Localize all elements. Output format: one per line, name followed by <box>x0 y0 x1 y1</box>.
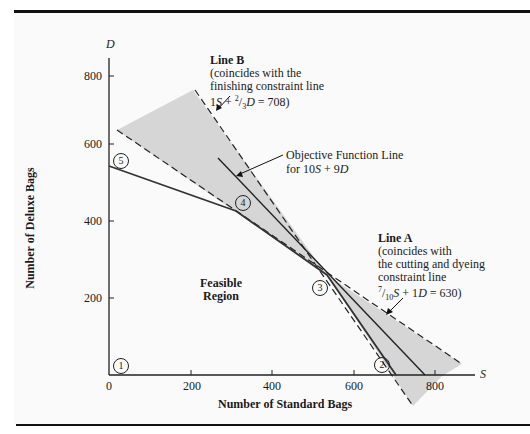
vertex-label-1: 1 <box>113 358 129 374</box>
y-axis-symbol: D <box>106 37 115 51</box>
vertex-label-5: 5 <box>113 153 129 169</box>
objective-desc-1: Objective Function Line <box>286 148 403 162</box>
y-tick-label-800: 800 <box>84 69 102 83</box>
y-tick-label-400: 400 <box>84 214 102 228</box>
line-a-desc-1: (coincides with <box>378 244 452 258</box>
vertex-label-4: 4 <box>235 195 251 211</box>
line-a-eq-d: D <box>418 286 427 300</box>
x-tick-label-200: 200 <box>183 379 201 393</box>
x-axis-symbol: S <box>480 367 486 381</box>
objective-eq-d: D <box>340 162 349 176</box>
vertex-label-3: 3 <box>312 280 328 296</box>
line-b-title: Line B <box>210 53 244 67</box>
x-tick-label-600: 600 <box>345 379 363 393</box>
line-a-eq-mid: + 1 <box>399 286 418 300</box>
line-b-eq-end: = 708) <box>255 95 290 109</box>
x-axis-title: Number of Standard Bags <box>218 397 352 411</box>
line-b-desc-1: (coincides with the <box>210 66 301 80</box>
y-tick-label-200: 200 <box>84 291 102 305</box>
x-tick-label-800: 800 <box>426 379 444 393</box>
line-b-eq-plus: + <box>222 95 235 109</box>
line-b-eq-d: D <box>246 95 255 109</box>
line-b-desc-2: finishing constraint line <box>210 79 324 93</box>
x-tick-label-0: 0 <box>106 379 112 393</box>
objective-eq-prefix: for 10 <box>286 162 315 176</box>
objective-eq-mid: + 9 <box>321 162 340 176</box>
line-b-equation: 1S + 2/3D = 708) <box>210 92 290 114</box>
y-axis-title: Number of Deluxe Bags <box>23 167 38 288</box>
y-tick-label-600: 600 <box>84 137 102 151</box>
vertex-label-2: 2 <box>374 357 390 373</box>
line-a-equation: 7/10S + 1D = 630) <box>378 283 462 305</box>
line-a-desc-3: constraint line <box>378 270 446 284</box>
objective-equation: for 10S + 9D <box>286 162 348 176</box>
x-tick-label-400: 400 <box>263 379 281 393</box>
shaded-region-upper <box>117 90 327 275</box>
feasible-label-2: Region <box>199 289 243 303</box>
line-b-eq-frac-num: 2 <box>235 94 239 103</box>
line-a-desc-2: the cutting and dyeing <box>378 257 485 271</box>
line-a-eq-end: = 630) <box>427 286 462 300</box>
feasible-label-1: Feasible <box>199 276 243 290</box>
line-a-eq-frac-num: 7 <box>378 285 382 294</box>
line-a-title: Line A <box>378 231 412 245</box>
